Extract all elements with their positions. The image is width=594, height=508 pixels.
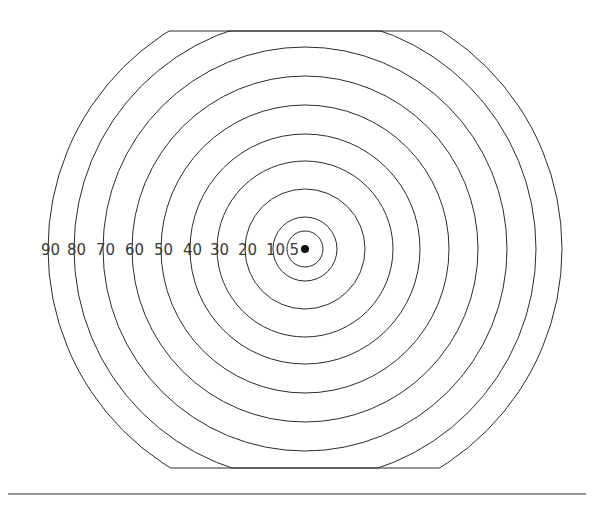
- ring-label-5: 5: [289, 241, 299, 259]
- ring-label-20: 20: [238, 241, 257, 259]
- ring-label-30: 30: [210, 241, 229, 259]
- ring-labels-group: 5102030405060708090: [41, 241, 299, 259]
- ring-label-50: 50: [154, 241, 173, 259]
- ring-label-40: 40: [183, 241, 202, 259]
- ring-label-70: 70: [96, 241, 115, 259]
- ring-label-80: 80: [67, 241, 86, 259]
- ring-label-10: 10: [266, 241, 285, 259]
- ring-label-90: 90: [41, 241, 60, 259]
- ring-label-60: 60: [125, 241, 144, 259]
- center-dot: [301, 245, 309, 253]
- target-diagram: 5102030405060708090: [0, 0, 594, 508]
- target-svg-canvas: 5102030405060708090: [0, 0, 594, 508]
